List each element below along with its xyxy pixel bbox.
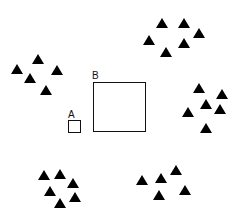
- triangle-icon: [178, 38, 190, 48]
- triangle-icon: [143, 35, 155, 45]
- triangle-icon: [11, 64, 23, 74]
- triangle-icon: [40, 85, 52, 95]
- triangle-icon: [54, 198, 66, 208]
- triangle-icon: [156, 18, 168, 28]
- triangle-icon: [200, 99, 212, 109]
- triangle-icon: [170, 165, 182, 175]
- triangle-icon: [216, 89, 228, 99]
- triangle-icon: [179, 185, 191, 195]
- triangle-icon: [67, 178, 79, 188]
- triangle-icon: [153, 190, 165, 200]
- triangle-icon: [160, 47, 172, 57]
- triangle-icon: [136, 175, 148, 185]
- triangle-icon: [44, 186, 56, 196]
- triangle-icon: [38, 170, 50, 180]
- square-b-label: B: [92, 71, 99, 81]
- diagram-canvas: AB: [0, 0, 237, 215]
- square-b: [93, 82, 146, 132]
- triangle-icon: [32, 54, 44, 64]
- triangle-icon: [24, 73, 36, 83]
- triangle-icon: [51, 65, 63, 75]
- triangle-icon: [182, 107, 194, 117]
- triangle-icon: [178, 18, 190, 28]
- triangle-icon: [214, 104, 226, 114]
- triangle-icon: [193, 28, 205, 38]
- triangle-icon: [155, 173, 167, 183]
- square-a: [68, 120, 81, 133]
- triangle-icon: [200, 123, 212, 133]
- triangle-icon: [69, 192, 81, 202]
- triangle-icon: [54, 169, 66, 179]
- triangle-icon: [193, 83, 205, 93]
- square-a-label: A: [68, 110, 75, 120]
